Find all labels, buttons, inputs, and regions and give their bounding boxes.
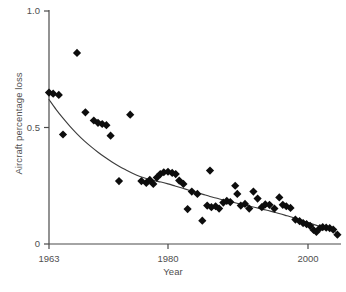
data-point-marker	[59, 130, 67, 138]
y-axis-title: Aircraft percentage loss	[13, 44, 24, 204]
x-axis-title: Year	[0, 266, 346, 277]
y-tick-label: 0	[0, 238, 40, 249]
axes-group	[49, 10, 341, 244]
data-point-marker	[126, 111, 134, 119]
data-point-marker	[231, 182, 239, 190]
data-point-marker	[249, 187, 257, 195]
data-point-marker	[73, 49, 81, 57]
data-point-marker	[184, 205, 192, 213]
data-point-marker	[206, 167, 214, 175]
x-axis-ticks	[49, 244, 308, 249]
y-tick-label: 1.0	[0, 5, 40, 16]
data-point-marker	[81, 108, 89, 116]
x-tick-label: 1980	[138, 253, 198, 264]
data-markers-group	[45, 49, 342, 239]
data-point-marker	[115, 177, 123, 185]
x-tick-label: 1963	[19, 253, 79, 264]
data-point-marker	[107, 132, 115, 140]
data-point-marker	[254, 194, 262, 202]
data-point-marker	[275, 193, 283, 201]
data-point-marker	[233, 190, 241, 198]
x-tick-label: 2000	[278, 253, 338, 264]
data-point-marker	[198, 217, 206, 225]
scatter-chart-figure: 00.51.0 196319802000 Aircraft percentage…	[0, 0, 346, 292]
y-axis-ticks	[44, 11, 49, 244]
plot-canvas	[0, 0, 346, 292]
data-point-marker	[55, 91, 63, 99]
